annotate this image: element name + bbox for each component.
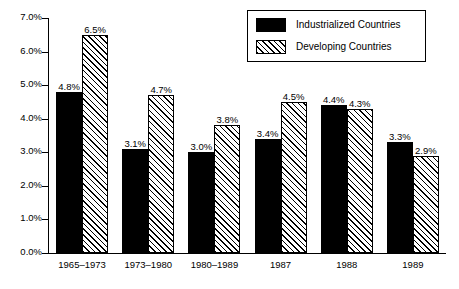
bar-industrialized[interactable]: 3.4% [255, 139, 281, 253]
x-axis-line [48, 253, 446, 254]
bar-value-label: 3.1% [124, 138, 146, 149]
legend-swatch-icon-industrialized [256, 18, 286, 32]
y-axis-tick-label: 7.0% [0, 11, 42, 22]
y-axis-tick-label: 1.0% [0, 212, 42, 223]
bar-value-label: 4.4% [323, 94, 345, 105]
legend-label-industrialized: Industrialized Countries [296, 19, 401, 31]
chart-legend: Industrialized Countries Developing Coun… [247, 10, 426, 62]
bar-value-label: 3.3% [389, 131, 411, 142]
bar-developing[interactable]: 3.8% [214, 125, 240, 253]
bar-value-label: 3.8% [217, 114, 239, 125]
y-axis-tick-label: 3.0% [0, 145, 42, 156]
x-axis-category-label: 1973–1980 [115, 259, 181, 271]
y-axis-tick-mark [42, 186, 48, 187]
bar-value-label: 4.5% [283, 91, 305, 102]
bar-industrialized[interactable]: 4.8% [56, 92, 82, 253]
bar-value-label: 4.3% [349, 98, 371, 109]
y-axis-tick-mark [42, 152, 48, 153]
y-axis-tick-label: 4.0% [0, 112, 42, 123]
y-axis-tick-label: 2.0% [0, 179, 42, 190]
legend-label-developing: Developing Countries [296, 41, 392, 53]
bar-industrialized[interactable]: 3.3% [387, 142, 413, 253]
bar-value-label: 4.8% [58, 81, 80, 92]
x-axis-category-label: 1987 [248, 259, 314, 271]
bar-value-label: 2.9% [415, 145, 437, 156]
legend-item-developing: Developing Countries [256, 39, 417, 55]
grouped-bar-chart: 0.0%1.0%2.0%3.0%4.0%5.0%6.0%7.0% 4.8%6.5… [0, 0, 459, 289]
y-axis-tick-label: 6.0% [0, 45, 42, 56]
legend-item-industrialized: Industrialized Countries [256, 17, 417, 33]
bar-value-label: 4.7% [150, 84, 172, 95]
y-axis-tick-mark [42, 253, 48, 254]
y-axis-tick-label: 0.0% [0, 246, 42, 257]
y-axis-tick-mark [42, 52, 48, 53]
bar-group: 4.8%6.5% [49, 18, 115, 253]
legend-swatch-icon-developing [256, 40, 286, 54]
bar-developing[interactable]: 2.9% [413, 156, 439, 253]
y-axis-tick-mark [42, 18, 48, 19]
y-axis-tick-label: 5.0% [0, 78, 42, 89]
bar-developing[interactable]: 4.3% [347, 109, 373, 253]
bar-group: 3.0%3.8% [181, 18, 247, 253]
y-axis-tick-mark [42, 119, 48, 120]
bar-developing[interactable]: 4.5% [281, 102, 307, 253]
bar-developing[interactable]: 4.7% [148, 95, 174, 253]
bar-industrialized[interactable]: 4.4% [321, 105, 347, 253]
bar-value-label: 3.0% [191, 141, 213, 152]
bar-value-label: 3.4% [257, 128, 279, 139]
x-axis-category-label: 1980–1989 [181, 259, 247, 271]
bar-developing[interactable]: 6.5% [82, 35, 108, 253]
x-axis-category-label: 1989 [380, 259, 446, 271]
bar-industrialized[interactable]: 3.0% [188, 152, 214, 253]
bar-group: 3.1%4.7% [115, 18, 181, 253]
bar-value-label: 6.5% [84, 24, 106, 35]
y-axis-tick-mark [42, 219, 48, 220]
bar-industrialized[interactable]: 3.1% [122, 149, 148, 253]
y-axis-tick-mark [42, 85, 48, 86]
x-axis-category-label: 1965–1973 [49, 259, 115, 271]
x-axis-category-label: 1988 [314, 259, 380, 271]
